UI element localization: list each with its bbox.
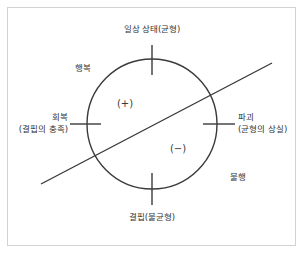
label-right-destruction: 파괴 (균형의 상실)	[238, 112, 287, 135]
sign-negative: (−)	[170, 143, 186, 154]
label-bottom-deficiency: 결핍(불균형)	[129, 212, 175, 223]
label-right-destruction-main: 파괴	[238, 112, 287, 124]
sign-positive: (+)	[117, 98, 133, 109]
label-unhappiness: 불행	[230, 172, 246, 183]
label-left-recovery-main: 회복	[19, 112, 68, 124]
diagram-canvas: 일상 상태(균형) 결핍(불균형) 회복 (결핍의 충족) 파괴 (균형의 상실…	[0, 0, 304, 254]
label-top-normal-state: 일상 상태(균형)	[124, 24, 180, 35]
label-right-destruction-sub: (균형의 상실)	[238, 124, 287, 136]
main-circle	[87, 59, 217, 189]
label-left-recovery: 회복 (결핍의 충족)	[19, 112, 68, 135]
label-happiness: 행복	[75, 63, 91, 74]
label-left-recovery-sub: (결핍의 충족)	[19, 124, 68, 136]
